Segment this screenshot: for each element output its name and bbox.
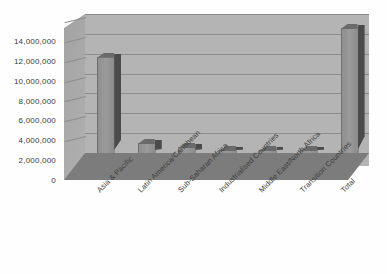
gridline-5 (85, 54, 369, 55)
bar-chart: 02,000,0004,000,0006,000,0008,000,00010,… (0, 0, 387, 274)
bar-face-0 (97, 57, 115, 153)
gridline-6 (85, 34, 369, 35)
back-wall (85, 14, 369, 166)
y-axis-tick-6: 12,000,000 (14, 56, 56, 65)
bar-side-0 (114, 54, 121, 150)
bar-side-3 (236, 147, 243, 150)
gridline-2 (85, 113, 369, 114)
bar-side-4 (276, 147, 283, 150)
bar-side-1 (155, 140, 162, 150)
y-axis-tick-3: 6,000,000 (19, 116, 56, 125)
bar-side-2 (195, 144, 202, 150)
y-axis-tick-1: 2,000,000 (19, 156, 56, 165)
y-axis-tick-2: 4,000,000 (19, 136, 56, 145)
y-axis-tick-7: 14,000,000 (14, 37, 56, 46)
gridline-7 (85, 14, 369, 15)
bar-side-6 (358, 25, 365, 150)
gridline-4 (85, 74, 369, 75)
bar-6 (341, 28, 358, 153)
bar-1 (138, 143, 155, 153)
bar-face-1 (138, 143, 156, 153)
bar-face-6 (341, 28, 359, 153)
gridline-3 (85, 93, 369, 94)
gridline-1 (85, 133, 369, 134)
x-axis: Asia & PacificLatin America/CaribbeanSub… (0, 184, 387, 274)
y-axis-tick-4: 8,000,000 (19, 96, 56, 105)
bar-0 (97, 57, 114, 153)
y-axis-tick-5: 10,000,000 (14, 76, 56, 85)
bar-side-5 (317, 147, 324, 150)
